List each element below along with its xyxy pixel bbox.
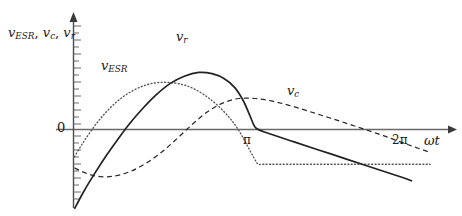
curve-v-c <box>75 98 429 177</box>
y-axis-label-term-2: vc <box>43 25 55 40</box>
y-axis-ticks <box>74 26 82 199</box>
curve-label-v-r: vr <box>176 30 188 45</box>
y-axis-label-sep-1: , <box>35 25 43 40</box>
y-axis-label-sub-1: ESR <box>15 31 34 41</box>
curve-label-v-c: vc <box>287 84 299 99</box>
x-axis-label: ωt <box>424 134 440 147</box>
y-axis-label-sub-3: r <box>71 31 75 41</box>
curve-label-v-esr-sub: ESR <box>108 64 127 74</box>
waveform-figure: vESR, vc, vr vESR vr vc 0 π 2π ωt <box>0 0 462 216</box>
x-axis-tick-label-2pi: 2π <box>392 134 408 146</box>
curve-label-v-c-sub: c <box>294 89 299 99</box>
y-axis-label: vESR, vc, vr <box>8 26 75 41</box>
curve-label-v-esr: vESR <box>101 59 128 74</box>
y-axis-zero-label: 0 <box>57 121 65 134</box>
y-axis-label-term-1: vESR <box>8 25 35 40</box>
x-axis-arrowhead <box>448 126 457 134</box>
curve-label-v-r-sub: r <box>183 35 187 45</box>
x-axis-tick-label-pi: π <box>243 134 251 146</box>
y-axis-label-term-3: vr <box>63 25 75 40</box>
y-axis-arrowhead <box>70 12 78 22</box>
